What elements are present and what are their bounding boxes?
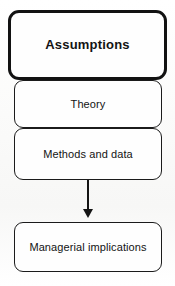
node-methods-and-data[interactable]: Methods and data — [14, 128, 162, 180]
node-theory[interactable]: Theory — [14, 80, 162, 128]
node-managerial-implications[interactable]: Managerial implications — [14, 222, 162, 272]
node-methods-and-data-label: Methods and data — [39, 148, 137, 161]
connector-methods-to-implications — [82, 180, 94, 220]
node-managerial-implications-label: Managerial implications — [25, 241, 150, 254]
node-assumptions[interactable]: Assumptions — [8, 10, 167, 80]
diagram-canvas: Assumptions Theory Methods and data Mana… — [0, 0, 175, 286]
node-assumptions-label: Assumptions — [41, 38, 134, 53]
connector-shaft — [87, 180, 89, 211]
node-theory-label: Theory — [67, 98, 110, 111]
arrowhead-down-icon — [83, 209, 93, 218]
